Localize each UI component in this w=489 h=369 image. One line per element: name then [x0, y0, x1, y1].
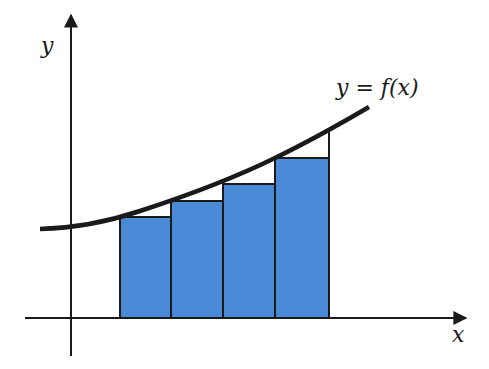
curve-label: y = f(x) — [335, 75, 419, 100]
y-axis-label: y — [40, 33, 54, 58]
riemann-rectangle-3 — [223, 184, 275, 318]
riemann-rectangle-1 — [120, 217, 171, 318]
riemann-rectangle-2 — [171, 201, 223, 318]
riemann-rectangle-4 — [275, 158, 329, 318]
riemann-sum-diagram: y x y = f(x) — [0, 0, 489, 369]
x-axis-label: x — [452, 322, 465, 347]
